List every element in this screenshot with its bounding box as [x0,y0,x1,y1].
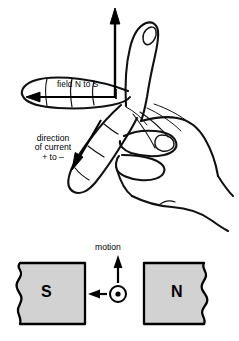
current-out-of-page-dot [115,291,120,296]
hand-illustration [22,22,233,231]
wrist-upper-edge [218,176,233,196]
thumb-arrow-head [110,8,120,24]
pinky-finger-outline [116,155,164,180]
thumbnail [143,27,156,45]
wrist-lower-edge [132,196,228,231]
wrist-bone-mark [159,201,175,205]
magnet-left-pole-label: S [41,283,52,300]
index-crease-3 [46,79,48,106]
diagram-canvas [0,0,239,341]
fleming-right-hand-rule-figure: field N to S direction of current + to –… [0,0,239,341]
middle-crease-1 [104,124,118,134]
thumb-outline [126,22,159,121]
force-arrow-head [88,290,100,299]
middle-crease-3 [75,168,89,180]
ring-fingernail [155,135,174,151]
ring-finger-outline [120,131,177,156]
palm-outline [141,117,218,176]
hand-heel [117,170,132,196]
current-label: direction of current + to – [22,134,84,162]
middle-crease-2 [88,146,104,157]
current-label-line-3: + to – [22,153,84,162]
motion-arrow-head [114,255,123,268]
magnet-right-pole-label: N [171,283,183,300]
field-label: field N to S [57,81,98,90]
motion-label: motion [95,243,121,252]
